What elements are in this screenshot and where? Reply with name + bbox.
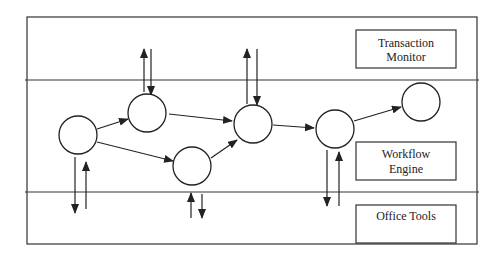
- workflow-node-n5: [316, 110, 354, 148]
- edge-n5-n6: [354, 107, 401, 121]
- layer-label-line: Transaction: [378, 36, 434, 50]
- edge-n2-n4: [169, 114, 232, 121]
- workflow-node-n3: [173, 147, 211, 185]
- workflow-node-n2: [128, 94, 166, 132]
- layer-label-line: Monitor: [386, 50, 425, 64]
- layer-box-workflow-engine: Workflow Engine: [356, 142, 456, 180]
- layer-box-office-tools: Office Tools: [356, 205, 456, 243]
- layer-interaction-arrows: [75, 49, 339, 218]
- edge-n1-n3: [97, 142, 173, 161]
- workflow-node-n1: [59, 116, 97, 154]
- edge-n1-n2: [97, 119, 128, 129]
- workflow-node-n4: [234, 105, 272, 143]
- layer-box-transaction-monitor: Transaction Monitor: [356, 30, 456, 68]
- workflow-node-n6: [402, 83, 440, 121]
- edge-n4-n5: [273, 125, 314, 128]
- edge-n3-n4: [211, 140, 237, 158]
- workflow-architecture-diagram: Transaction Monitor Workflow Engine Offi…: [0, 0, 503, 266]
- layer-label-line: Office Tools: [376, 209, 436, 223]
- layer-label-line: Engine: [389, 162, 423, 176]
- layer-label-line: Workflow: [382, 147, 431, 161]
